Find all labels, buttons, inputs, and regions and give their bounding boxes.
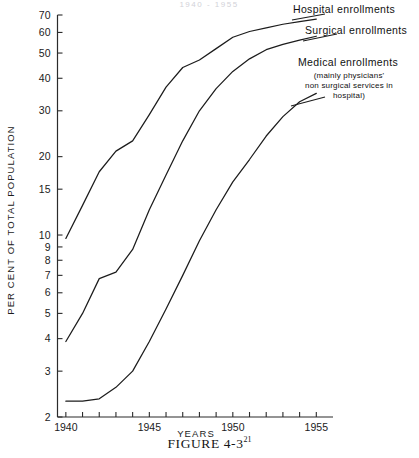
series-sublabel-medical-line3: hospital): [333, 91, 365, 100]
series-line-hospital: [66, 19, 316, 238]
y-axis-ticks: [58, 15, 63, 417]
y-tick-label: 30: [39, 104, 51, 116]
x-tick-label: 1940: [54, 421, 78, 433]
series-label-hospital: Hospital enrollments: [293, 3, 395, 15]
x-tick-label: 1955: [305, 421, 329, 433]
y-axis: 234567891015203040506070: [39, 9, 63, 423]
x-tick-label: 1945: [138, 421, 162, 433]
y-tick-label: 50: [39, 47, 51, 59]
series-sublabel-medical-line1: (mainly physicians': [314, 71, 385, 80]
y-tick-label: 10: [39, 229, 51, 241]
y-tick-label: 7: [45, 269, 51, 281]
y-tick-label: 60: [39, 26, 51, 38]
series-sublabel-medical-line2: non surgical services in: [305, 81, 393, 90]
y-tick-label: 40: [39, 72, 51, 84]
x-tick-label: 1950: [221, 421, 245, 433]
y-tick-label: 20: [39, 150, 51, 162]
y-tick-label: 2: [45, 411, 51, 423]
y-tick-label: 5: [45, 307, 51, 319]
y-tick-label: 6: [45, 286, 51, 298]
y-tick-label: 8: [45, 254, 51, 266]
series-line-surgical: [66, 36, 316, 341]
series-line-medical: [66, 93, 316, 401]
y-tick-label: 3: [45, 365, 51, 377]
data-series-group: [66, 19, 316, 401]
y-tick-label: 15: [39, 183, 51, 195]
x-axis-ticks: [66, 412, 316, 417]
figure-caption-text: FIGURE 4-3: [167, 436, 243, 451]
figure-caption-footnote: 21: [244, 435, 252, 444]
chart-top-title: 1940 - 1955: [179, 0, 238, 9]
figure-4-3: 1940 - 1955 234567891015203040506070 194…: [0, 0, 419, 458]
line-chart: 1940 - 1955 234567891015203040506070 194…: [0, 0, 419, 458]
series-label-medical: Medical enrollments: [298, 56, 398, 68]
series-label-surgical: Surgical enrollments: [305, 24, 407, 36]
y-tick-label: 9: [45, 241, 51, 253]
figure-caption: FIGURE 4-321: [0, 435, 419, 452]
y-axis-tick-labels: 234567891015203040506070: [39, 9, 51, 423]
leader-line-medical: [291, 97, 325, 106]
y-tick-label: 70: [39, 9, 51, 21]
y-axis-title: PER CENT OF TOTAL POPULATION: [5, 125, 16, 315]
y-tick-label: 4: [45, 332, 51, 344]
